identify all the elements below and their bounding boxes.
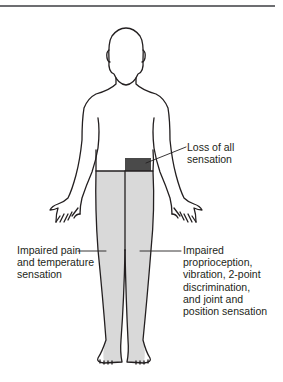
- label-impaired-proprioception: Impaired proprioception, vibration, 2-po…: [183, 244, 267, 317]
- label-impaired-pain-temperature: Impaired pain and temperature sensation: [17, 244, 94, 281]
- loss-of-sensation-band: [125, 158, 151, 171]
- left-hand: [56, 208, 80, 222]
- loss-leader-line: [146, 147, 186, 163]
- head-outline: [109, 28, 143, 85]
- right-hand: [172, 208, 196, 222]
- right-inner-arm: [153, 118, 172, 214]
- label-loss-of-all-sensation: Loss of all sensation: [187, 141, 234, 165]
- body-figure: [0, 0, 283, 382]
